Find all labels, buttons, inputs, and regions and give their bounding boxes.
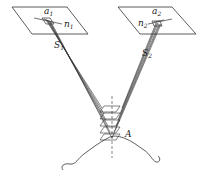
label-a1: a1	[44, 6, 53, 17]
label-a2: a2	[152, 6, 161, 17]
image-patch-right	[148, 19, 172, 26]
label-S1: S1	[54, 40, 64, 51]
label-n2: n2	[138, 18, 148, 29]
label-S2: S2	[142, 48, 152, 59]
stereo-imaging-diagram: a1 n1 S1 a2 n2 S2 A	[0, 0, 204, 181]
rays-left	[46, 20, 112, 138]
label-n1: n1	[64, 19, 74, 30]
terrain-surface	[62, 136, 160, 170]
label-A: A	[124, 129, 132, 139]
